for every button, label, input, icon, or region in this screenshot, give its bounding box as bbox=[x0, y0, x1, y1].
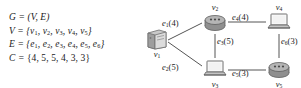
graph-node-v5[interactable]: v5 bbox=[266, 58, 292, 80]
definition-V: V = {v1, v2, v3, v4, v5} bbox=[9, 25, 129, 39]
definition-C: C = {4, 5, 5, 4, 3, 3} bbox=[9, 52, 129, 66]
router-icon bbox=[202, 11, 228, 33]
edge-label-e2: e2(5) bbox=[162, 62, 179, 72]
definition-G: G = (V, E) bbox=[9, 11, 129, 25]
graph-node-v1[interactable]: v1 bbox=[144, 28, 170, 50]
edge-label-e6: e6(3) bbox=[281, 36, 298, 46]
graph-node-label-v2: v2 bbox=[195, 2, 235, 12]
edge-label-e4: e4(4) bbox=[232, 12, 249, 22]
graph-node-label-v4: v4 bbox=[259, 2, 299, 12]
edge-label-e5: e5(3) bbox=[232, 68, 249, 78]
figure-graph-definition: G = (V, E) V = {v1, v2, v3, v4, v5} E = … bbox=[0, 0, 301, 88]
edge-label-e3: e3(5) bbox=[217, 36, 234, 46]
graph-node-v4[interactable]: v4 bbox=[266, 11, 292, 33]
definition-E: E = {e1, e2, e3, e4, e5, e6} bbox=[9, 38, 129, 52]
router-icon bbox=[266, 58, 292, 80]
server-icon bbox=[144, 28, 170, 50]
laptop-icon bbox=[266, 11, 292, 33]
graph-node-v3[interactable]: v3 bbox=[202, 58, 228, 80]
laptop-icon bbox=[202, 58, 228, 80]
definitions-block: G = (V, E) V = {v1, v2, v3, v4, v5} E = … bbox=[9, 11, 129, 65]
graph-node-label-v1: v1 bbox=[137, 49, 177, 59]
edge-label-e1: e1(4) bbox=[162, 18, 179, 28]
graph-node-label-v5: v5 bbox=[259, 79, 299, 88]
graph-node-label-v3: v3 bbox=[195, 79, 235, 88]
graph-node-v2[interactable]: v2 bbox=[202, 11, 228, 33]
network-graph: v1 v2 bbox=[140, 0, 301, 88]
